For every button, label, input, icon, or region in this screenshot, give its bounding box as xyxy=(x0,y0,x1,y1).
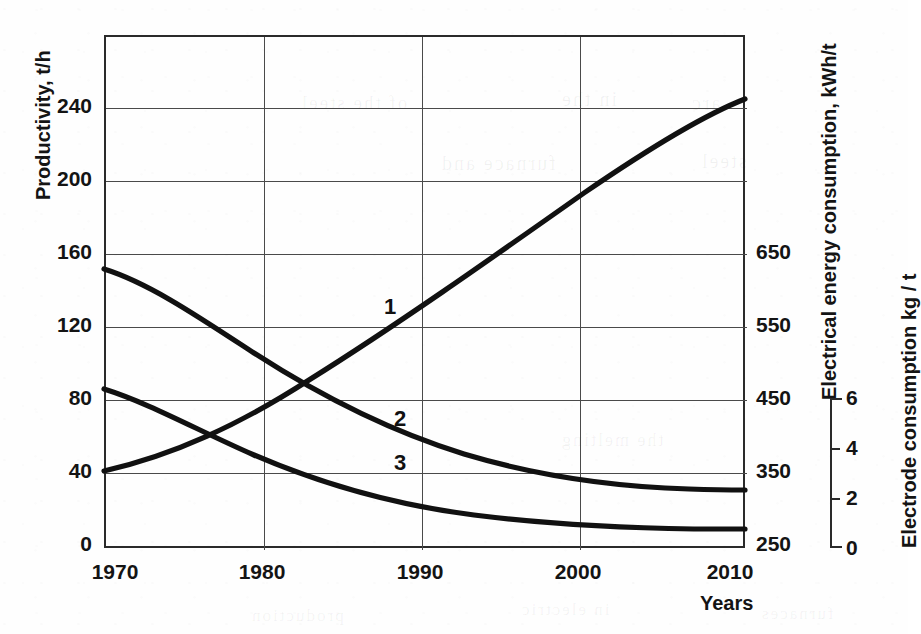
curve-label-2: 2 xyxy=(394,406,406,432)
x-axis-title: Years xyxy=(700,592,753,615)
data-curves xyxy=(104,35,745,548)
electrode-axis-rail xyxy=(830,398,832,548)
y-axis-left-title: Productivity, t/h xyxy=(32,50,55,200)
ytick-left-120: 120 xyxy=(26,313,92,337)
electrode-axis-cap-bottom xyxy=(831,546,842,548)
electrode-axis-cap-top xyxy=(831,398,842,400)
ytick-left-160: 160 xyxy=(26,240,92,264)
curve-1-productivity xyxy=(104,99,745,471)
ytick-electrode-4: 4 xyxy=(846,436,858,460)
ytick-energy-650: 650 xyxy=(756,240,791,264)
xtick-1980: 1980 xyxy=(239,560,286,584)
xtick-2000: 2000 xyxy=(555,560,602,584)
ytick-electrode-2: 2 xyxy=(846,486,858,510)
curve-label-3: 3 xyxy=(394,450,406,476)
curve-3-electrode-consumption xyxy=(104,389,745,529)
ytick-electrode-6: 6 xyxy=(846,386,858,410)
ytick-energy-550: 550 xyxy=(756,313,791,337)
ytick-left-40: 40 xyxy=(26,459,92,483)
electrode-axis-tick-4 xyxy=(831,448,840,450)
y-axis-electrode-title: Electrode consumption kg / t xyxy=(898,274,921,548)
ytick-energy-450: 450 xyxy=(756,386,791,410)
y-axis-energy-title: Electrical energy consumption, kWh/t xyxy=(818,43,841,400)
ytick-electrode-0: 0 xyxy=(846,536,858,560)
ytick-energy-350: 350 xyxy=(756,459,791,483)
ytick-left-0: 0 xyxy=(26,532,92,556)
ytick-energy-250: 250 xyxy=(756,532,791,556)
xtick-1990: 1990 xyxy=(397,560,444,584)
ytick-left-80: 80 xyxy=(26,386,92,410)
electrode-axis-tick-2 xyxy=(831,498,840,500)
xtick-1970: 1970 xyxy=(92,560,139,584)
curve-label-1: 1 xyxy=(384,294,396,320)
xtick-2010: 2010 xyxy=(707,560,754,584)
